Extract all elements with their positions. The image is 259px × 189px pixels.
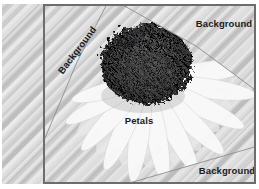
bud-core: [113, 48, 173, 92]
flower-artwork: [45, 6, 254, 182]
segmentation-figure: Background Bud Background Petals Backgro…: [0, 0, 259, 189]
bud-group: [97, 21, 189, 101]
region-label-background-bottom-right: Background: [199, 165, 255, 176]
region-label-bud: Bud: [117, 37, 136, 48]
region-label-petals: Petals: [125, 115, 154, 126]
photo-crop-frame: Background Bud Background Petals Backgro…: [43, 4, 256, 184]
flower: [62, 21, 254, 182]
region-label-background-top-right: Background: [196, 18, 252, 29]
